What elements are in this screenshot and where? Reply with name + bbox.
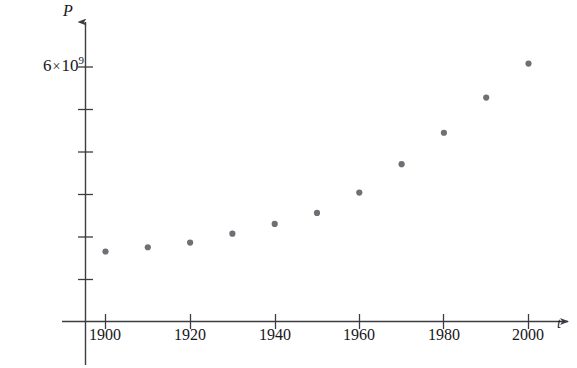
x-tick-label-1960: 1960 — [329, 326, 389, 344]
data-point — [102, 248, 108, 254]
data-point-series — [102, 61, 531, 255]
x-tick-label-1940: 1940 — [245, 326, 305, 344]
data-point — [272, 221, 278, 227]
x-tick-label-1900: 1900 — [75, 326, 135, 344]
data-point — [441, 130, 447, 136]
population-scatter-figure: P t 6×109 1900 1920 1940 1960 1980 2000 — [0, 0, 577, 368]
x-tick-label-2000: 2000 — [498, 326, 558, 344]
data-point — [525, 61, 531, 67]
x-tick-label-1920: 1920 — [160, 326, 220, 344]
data-point — [356, 189, 362, 195]
data-point — [229, 231, 235, 237]
x-tick-label-1980: 1980 — [414, 326, 474, 344]
data-point — [145, 244, 151, 250]
multiplication-sign-icon: × — [52, 59, 62, 74]
data-point — [187, 240, 193, 246]
y-tick-label-6e9: 6×109 — [43, 54, 84, 76]
y-tick-coefficient: 6 — [43, 56, 52, 75]
y-tick-exponent: 9 — [79, 54, 85, 66]
data-point — [314, 210, 320, 216]
y-axis-label: P — [63, 2, 73, 20]
data-point — [483, 94, 489, 100]
plot-canvas — [0, 0, 577, 368]
y-tick-base: 10 — [62, 56, 79, 75]
data-point — [399, 161, 405, 167]
